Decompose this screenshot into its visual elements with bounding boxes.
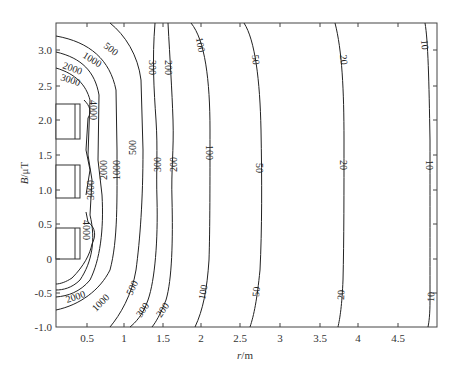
svg-text:1000: 1000 bbox=[90, 291, 112, 313]
svg-text:100: 100 bbox=[194, 36, 207, 53]
svg-text:300: 300 bbox=[134, 301, 152, 320]
svg-text:10: 10 bbox=[424, 160, 435, 170]
svg-text:50: 50 bbox=[254, 163, 265, 173]
contour-chart: 500 1000 2000 3000 4000 300 200 100 50 2… bbox=[0, 0, 450, 374]
svg-text:200: 200 bbox=[163, 60, 174, 75]
svg-text:2000: 2000 bbox=[98, 160, 109, 180]
x-tick-label: 4 bbox=[355, 332, 361, 344]
svg-text:500: 500 bbox=[124, 279, 140, 297]
y-tick-label: 2.5 bbox=[38, 80, 52, 92]
svg-text:2000: 2000 bbox=[64, 288, 86, 305]
y-axis-title: B/μT bbox=[18, 162, 30, 185]
y-tick-label: -0.5 bbox=[35, 287, 53, 299]
svg-text:500: 500 bbox=[102, 40, 121, 58]
svg-text:4000: 4000 bbox=[81, 220, 92, 240]
x-tick-label: 0.5 bbox=[80, 332, 94, 344]
coil-top bbox=[56, 104, 80, 139]
contour-labels: 500 1000 2000 3000 4000 300 200 100 50 2… bbox=[59, 36, 436, 319]
x-axis-title: r/m bbox=[237, 349, 253, 361]
svg-text:500: 500 bbox=[127, 140, 138, 155]
x-tick-label: 4.5 bbox=[391, 332, 405, 344]
svg-text:20: 20 bbox=[338, 54, 350, 65]
svg-text:100: 100 bbox=[196, 284, 209, 301]
coil-middle bbox=[56, 165, 80, 198]
y-tick-label: 1.5 bbox=[38, 149, 52, 161]
x-tick-label: 2 bbox=[198, 332, 204, 344]
svg-text:4000: 4000 bbox=[88, 100, 99, 120]
svg-text:200: 200 bbox=[168, 157, 179, 172]
svg-text:1000: 1000 bbox=[111, 160, 122, 180]
x-tick-label: 3 bbox=[277, 332, 283, 344]
x-tick-label: 1.5 bbox=[156, 332, 170, 344]
svg-text:50: 50 bbox=[250, 286, 262, 297]
coil-rectangles bbox=[56, 104, 80, 259]
x-tick-label: 1 bbox=[121, 332, 127, 344]
y-tick-label: 3.0 bbox=[38, 44, 52, 56]
y-tick-label: 0.5 bbox=[38, 218, 52, 230]
svg-text:200: 200 bbox=[154, 301, 172, 320]
x-tick-label: 2.5 bbox=[233, 332, 247, 344]
y-tick-label: 0 bbox=[47, 253, 53, 265]
x-axis: 0.5 1 1.5 2 2.5 3 3.5 4 4.5 r/m bbox=[80, 23, 405, 361]
y-tick-label: -1.0 bbox=[35, 321, 53, 333]
svg-text:10: 10 bbox=[419, 39, 431, 50]
x-tick-label: 3.5 bbox=[313, 332, 327, 344]
svg-text:20: 20 bbox=[338, 160, 349, 170]
svg-text:3000: 3000 bbox=[85, 180, 96, 200]
coil-bottom bbox=[56, 228, 80, 259]
y-tick-label: 2.0 bbox=[38, 114, 52, 126]
svg-text:100: 100 bbox=[204, 145, 215, 160]
svg-text:50: 50 bbox=[250, 54, 262, 65]
svg-text:300: 300 bbox=[147, 60, 158, 75]
svg-text:300: 300 bbox=[152, 157, 163, 172]
y-tick-label: 1.0 bbox=[38, 184, 52, 196]
svg-text:20: 20 bbox=[335, 290, 346, 300]
